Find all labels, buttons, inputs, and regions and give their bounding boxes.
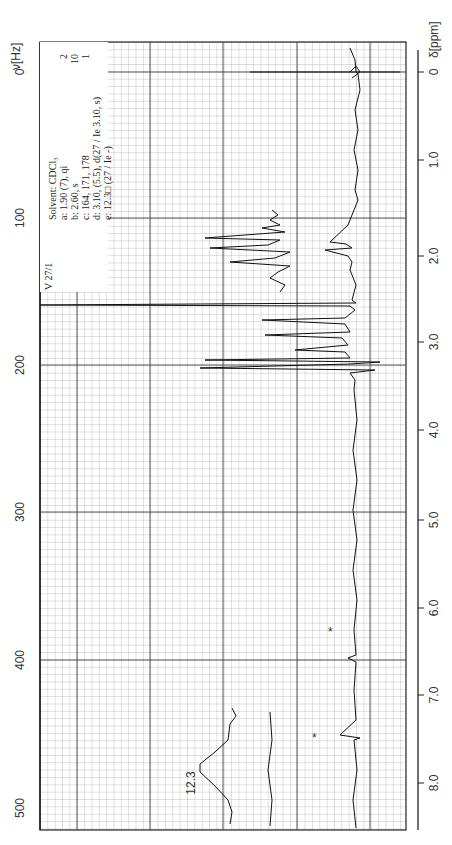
svg-text:0: 0: [13, 68, 27, 75]
right-axis: 0 1.0 2.0 3.0 4.0 5.0 6.0 7.0 8.0 δ[ppm]: [418, 21, 441, 830]
svg-text:Solvent: CDCl₃: Solvent: CDCl₃: [47, 157, 58, 220]
left-axis: ν[Hz] 0 100 200 300 400 500: [9, 42, 40, 830]
legend: V 27/1 Solvent: CDCl₃ a: 1.90 (7), qi b:…: [40, 42, 114, 292]
svg-text:10: 10: [69, 54, 80, 64]
svg-text:2.0: 2.0: [427, 247, 441, 264]
svg-text:3.0: 3.0: [427, 333, 441, 350]
svg-text:100: 100: [13, 208, 27, 228]
svg-text:*: *: [328, 625, 333, 639]
svg-text:300: 300: [13, 502, 27, 522]
svg-text:2: 2: [58, 54, 69, 59]
svg-text:500: 500: [13, 798, 27, 818]
svg-text:7.0: 7.0: [427, 686, 441, 703]
svg-text:400: 400: [13, 650, 27, 670]
svg-text:δ[ppm]: δ[ppm]: [427, 21, 441, 58]
left-axis-label: ν[Hz]: [9, 43, 23, 70]
svg-text:e: 12.3□ (27 / Ie -): e: 12.3□ (27 / Ie -): [102, 146, 114, 220]
svg-text:0: 0: [427, 68, 441, 75]
svg-text:200: 200: [13, 355, 27, 375]
svg-text:4.0: 4.0: [427, 421, 441, 438]
svg-text:5.0: 5.0: [427, 511, 441, 528]
svg-text:8.0: 8.0: [427, 774, 441, 791]
nmr-spectrum-chart: ν[Hz] 0 100 200 300 400 500 0 1.0 2.0 3.…: [0, 0, 452, 845]
svg-text:6.0: 6.0: [427, 599, 441, 616]
svg-text:*: *: [312, 731, 317, 745]
svg-text:1.0: 1.0: [427, 151, 441, 168]
svg-text:1: 1: [80, 54, 91, 59]
svg-text:c: 164, 171, 178: c: 164, 171, 178: [80, 155, 91, 220]
svg-text:b: 2.60, s: b: 2.60, s: [69, 183, 80, 220]
svg-text:V 27/1: V 27/1: [43, 263, 54, 290]
svg-text:12.3: 12.3: [184, 771, 198, 795]
